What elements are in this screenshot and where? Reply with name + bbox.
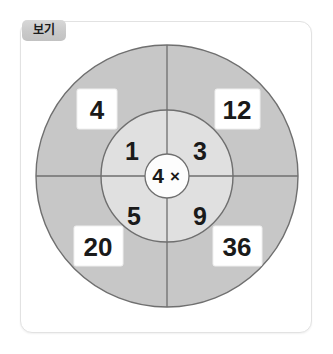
inner-ring-value-bottom-right: 9 [193,202,207,230]
outer-ring-value-top-left: 4 [90,95,105,125]
outer-ring-value-bottom-right: 36 [223,232,252,262]
target-diagram-container: 4 × 1 3 5 9 4 12 20 36 [0,0,333,354]
inner-ring-value-top-right: 3 [193,137,207,165]
page-root: 보기 4 × 1 3 5 9 4 [0,0,333,354]
multiplication-target-diagram: 4 × 1 3 5 9 4 12 20 36 [0,0,333,354]
outer-ring-value-top-right: 12 [223,95,252,125]
center-multiplicand-value: 4 [152,164,164,187]
multiplication-sign-icon: × [170,167,180,186]
inner-ring-value-top-left: 1 [125,137,139,165]
inner-ring-value-bottom-left: 5 [127,202,141,230]
example-badge-label: 보기 [22,20,66,41]
outer-ring-value-bottom-left: 20 [84,232,113,262]
